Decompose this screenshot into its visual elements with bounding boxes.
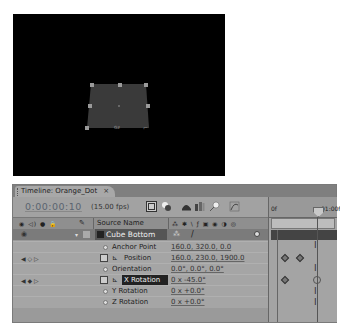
stopwatch-icon[interactable] <box>100 276 108 284</box>
transform-handle[interactable] <box>85 126 89 130</box>
composition-mini-flowchart-icon[interactable] <box>146 201 157 212</box>
3d-axis-gizmo-icon: ᴳᶻ <box>114 125 120 133</box>
ruler-label-start: 0f <box>271 205 277 212</box>
transform-handle[interactable] <box>90 83 94 87</box>
property-twirl-icon <box>103 289 108 294</box>
position-keyframe[interactable] <box>281 254 289 262</box>
composition-viewer[interactable]: ᴳᶻ ⌐ <box>13 14 225 176</box>
position-keyframe[interactable] <box>296 254 304 262</box>
draft-3d-icon[interactable] <box>161 201 172 212</box>
x-rotation-keyframe-current[interactable] <box>313 276 321 284</box>
hide-shy-layers-icon[interactable] <box>181 201 192 212</box>
stopwatch-icon[interactable] <box>100 254 108 262</box>
work-area-bar[interactable] <box>271 218 335 229</box>
panel-tab-bar: Timeline: Orange_Dot × <box>13 185 336 197</box>
transform-handle[interactable] <box>88 104 92 108</box>
switches-header-icons[interactable]: ⁂ ✱ \ ƒ ▣ ◉ ◑ ◎ <box>168 218 237 229</box>
layer-row-cube-bottom[interactable]: ◉ ▾ Cube Bottom ⁂ / <box>13 229 268 240</box>
keyframe-i-beam-icon: I <box>314 287 317 296</box>
layer-name[interactable]: Cube Bottom <box>95 229 167 240</box>
expand-layer-chevron-icon[interactable]: ▾ <box>75 229 78 240</box>
x-rotation-keyframe[interactable] <box>281 276 289 284</box>
timeline-panel: Timeline: Orange_Dot × 0:00:00:10 (15.00… <box>12 184 337 323</box>
quality-switch-icon[interactable]: / <box>191 229 194 240</box>
cube-bottom-layer-preview[interactable]: ᴳᶻ ⌐ <box>13 14 225 176</box>
time-marker-line <box>277 230 278 322</box>
transform-handle[interactable] <box>118 83 122 87</box>
layer-duration-bar[interactable] <box>271 230 337 240</box>
layer-label-color-swatch[interactable] <box>83 231 90 238</box>
anchor-point-icon <box>118 105 120 107</box>
3d-layer-switch-icon[interactable] <box>254 231 260 237</box>
column-header-row: ◉ ◁) ● 🔒 ✎ Source Name ⁂ ✱ \ ƒ ▣ ◉ ◑ ◎ <box>13 217 268 229</box>
graph-editor-icon[interactable] <box>229 201 240 212</box>
motion-blur-icon[interactable] <box>209 201 220 212</box>
keyframe-i-beam-icon: I <box>314 298 317 307</box>
property-row-z-rotation[interactable]: Z Rotation 0 x +0.0° <box>13 296 268 308</box>
shy-switch-icon[interactable]: ⁂ <box>173 229 180 240</box>
axis-arrow-icon: ⌐ <box>143 124 148 131</box>
keyframe-i-beam-icon: I <box>314 264 317 273</box>
close-tab-icon[interactable]: × <box>103 186 109 197</box>
graph-toggle-icon[interactable]: ⊾ <box>112 254 120 262</box>
layer-name-text: Cube Bottom <box>106 230 155 239</box>
current-time-indicator-line <box>317 217 318 322</box>
video-visibility-icon[interactable]: ◉ <box>21 229 27 240</box>
transform-handle[interactable] <box>144 83 148 87</box>
timeline-graph-area[interactable]: 0f 01:00f I I I I <box>268 197 337 322</box>
time-ruler[interactable]: 0f 01:00f <box>269 197 337 218</box>
transform-handle[interactable] <box>146 104 150 108</box>
property-twirl-icon <box>103 267 108 272</box>
tab-timeline-orange-dot[interactable]: Timeline: Orange_Dot × <box>15 186 115 197</box>
property-value[interactable]: 0 x +0.0° <box>171 297 205 308</box>
property-name: Z Rotation <box>112 297 148 308</box>
keyframe-i-beam-icon: I <box>314 241 317 250</box>
layer-source-icon <box>97 231 104 238</box>
tab-grip-icon[interactable] <box>17 188 20 196</box>
property-twirl-icon <box>103 300 108 305</box>
av-switches-header[interactable]: ◉ ◁) ● 🔒 <box>19 218 57 229</box>
current-time-display[interactable]: 0:00:00:10 <box>25 201 82 212</box>
frame-blending-icon[interactable] <box>194 201 205 212</box>
label-column-icon[interactable]: ✎ <box>79 218 85 229</box>
property-twirl-icon <box>103 245 108 250</box>
frame-rate-label: (15.00 fps) <box>91 203 129 211</box>
tab-title: Timeline: Orange_Dot <box>21 187 97 195</box>
graph-toggle-icon[interactable]: ⊾ <box>112 276 120 284</box>
source-name-header[interactable]: Source Name <box>93 218 144 229</box>
